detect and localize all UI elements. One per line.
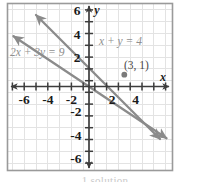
ytick-label-4: 4 (74, 27, 81, 42)
intersection-point-label: (3, 1) (124, 59, 149, 72)
x-axis-label: x (159, 70, 166, 84)
xtick-label-4: 4 (132, 92, 139, 107)
equation-label-1: 2x + 3y = 9 (10, 46, 65, 59)
ytick-label-neg6: -6 (70, 151, 81, 166)
ytick-label-6: 6 (74, 3, 81, 18)
intersection-point-marker (121, 72, 127, 78)
ytick-label-neg4: -4 (70, 128, 81, 143)
coordinate-graph-figure: -6 -4 -2 2 4 6 4 2 -2 -4 -6 x y 2x + 3y … (0, 0, 210, 182)
figure-caption: 1 solution (0, 172, 210, 182)
ytick-label-2: 2 (74, 50, 81, 65)
graph-canvas: -6 -4 -2 2 4 6 4 2 -2 -4 -6 x y 2x + 3y … (0, 0, 210, 182)
xtick-label-neg4: -4 (42, 92, 53, 107)
ytick-label-neg2: -2 (70, 104, 81, 119)
y-axis-label: y (92, 3, 100, 17)
xtick-label-2: 2 (109, 92, 116, 107)
equation-label-2: x + y = 4 (98, 35, 142, 48)
xtick-label-neg6: -6 (19, 92, 30, 107)
